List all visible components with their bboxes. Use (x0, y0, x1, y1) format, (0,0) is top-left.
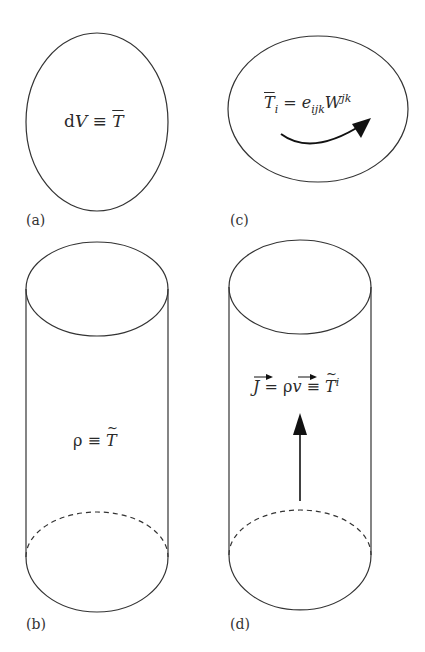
diagram-canvas (0, 0, 425, 652)
eq-c-w-sup: jk (341, 92, 351, 105)
eq-d-rho: ρ (283, 377, 292, 396)
eq-b-rho: ρ (73, 431, 82, 450)
eq-c-w: W (325, 93, 341, 112)
tilde-mark: ~ (326, 366, 337, 381)
equation-a: dV ≡ T (64, 111, 124, 131)
eq-d-rhs-wrap: ~T (325, 377, 336, 396)
eq-c-e: e (302, 93, 311, 112)
equation-c: Ti = eijkWjk (264, 92, 351, 116)
curved-arrow-icon (281, 124, 363, 143)
eq-c-e-sub: ijk (311, 103, 325, 116)
eq-d-op1: = (259, 377, 283, 396)
equation-d: J = ρv ≡ ~Ti (253, 376, 339, 396)
eq-a-op: ≡ (87, 111, 112, 131)
eq-c-op: = (278, 93, 302, 112)
equation-b: ρ ≡ ~T (73, 431, 117, 450)
panel-label-a: (a) (26, 212, 45, 228)
tilde-mark: ~ (107, 420, 118, 435)
eq-b-op: ≡ (82, 431, 106, 450)
panel-label-d: (d) (230, 616, 250, 632)
eq-a-d: d (64, 111, 75, 131)
panel-label-c: (c) (230, 212, 249, 228)
cylinder-b (26, 242, 168, 612)
eq-a-rhs: T (112, 111, 123, 131)
eq-b-rhs-wrap: ~T (106, 431, 117, 450)
panel-label-b: (b) (26, 616, 46, 632)
eq-a-v: V (75, 111, 87, 131)
eq-c-t: T (264, 93, 275, 112)
eq-d-op2: ≡ (301, 377, 325, 396)
